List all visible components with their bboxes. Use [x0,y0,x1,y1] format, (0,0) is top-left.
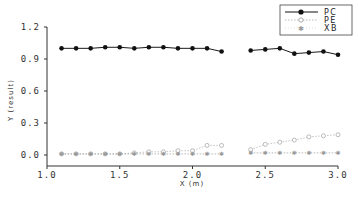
line-chart: 0.00.30.60.91.2 1.01.52.02.53.0 X (m) Y … [0,0,358,201]
data-point: ✱ [205,150,210,157]
data-point [336,52,341,57]
data-point: ✱ [175,150,180,157]
x-tick-label: 1.0 [37,170,56,180]
x-tick-label: 1.5 [110,170,129,180]
data-point: ✱ [292,149,297,156]
data-point: ✱ [277,149,282,156]
data-point [176,46,181,51]
series-pe [60,133,340,156]
series-pc [59,45,340,57]
data-point [117,45,122,50]
data-point: ✱ [219,150,224,157]
data-point: ✱ [132,150,137,157]
data-point [88,46,93,51]
x-tick-label: 2.0 [183,170,202,180]
data-point [132,46,137,51]
y-tick-label: 1.2 [21,22,40,32]
y-tick-label: 0.3 [21,118,40,128]
data-point [292,51,297,56]
data-point: ✱ [190,150,195,157]
data-point: ✱ [263,149,268,156]
x-tick-label: 3.0 [328,170,347,180]
plot-series: ✱✱✱✱✱✱✱✱✱✱✱✱✱✱✱✱✱✱✱ [59,45,340,157]
data-point [321,134,325,138]
data-point: ✱ [103,150,108,157]
data-point [307,135,311,139]
data-point: ✱ [59,150,64,157]
y-tick-label: 0.9 [21,54,40,64]
data-point [307,50,312,55]
x-tick-label: 2.5 [256,170,275,180]
data-point [278,46,283,51]
data-point: ✱ [88,150,93,157]
data-point [220,143,224,147]
data-point: ✱ [321,149,326,156]
data-point: ✱ [306,149,311,156]
legend-label-xb: XB [324,24,338,33]
data-point [263,47,268,52]
star-marker-icon: ✱ [298,25,304,33]
data-point: ✱ [117,150,122,157]
y-tick-label: 0.0 [21,150,40,160]
data-point [263,142,267,146]
data-point [59,46,64,51]
data-point [292,138,296,142]
data-point [74,46,79,51]
data-point [336,133,340,137]
legend: PC PE ✱ XB [280,5,352,35]
data-point [161,45,166,50]
data-point: ✱ [248,149,253,156]
data-point: ✱ [146,150,151,157]
x-ticks: 1.01.52.02.53.0 [37,166,347,180]
data-point [190,46,195,51]
data-point: ✱ [161,150,166,157]
y-ticks: 0.00.30.60.91.2 [21,22,47,160]
data-point [205,46,210,51]
open-circle-marker-icon [299,18,303,22]
data-point: ✱ [74,150,79,157]
data-point [147,45,152,50]
y-tick-label: 0.6 [21,86,40,96]
data-point [219,49,224,54]
data-point [278,140,282,144]
data-point: ✱ [335,149,340,156]
data-point [103,45,108,50]
series-xb: ✱✱✱✱✱✱✱✱✱✱✱✱✱✱✱✱✱✱✱ [59,149,340,157]
data-point [321,49,326,54]
y-axis-label: Y (result) [7,79,15,122]
x-axis-label: X (m) [180,180,204,188]
data-point [205,143,209,147]
filled-circle-marker-icon [298,9,303,14]
data-point [248,48,253,53]
